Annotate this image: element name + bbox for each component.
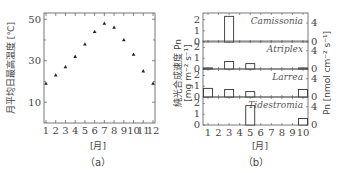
x-tick-label: 9: [289, 127, 295, 138]
y-right-tick-label: 4: [311, 101, 317, 112]
bar: [299, 89, 308, 97]
x-tick-label: 7: [268, 127, 274, 138]
y-right-tick-label: 4: [311, 17, 317, 28]
bar: [246, 64, 255, 69]
panel-b-ylabel-right: Pn [nmol cm⁻² s⁻¹]: [322, 31, 332, 115]
x-tick-label: 4: [72, 125, 78, 136]
data-point: [141, 69, 145, 72]
x-tick-label: 5: [82, 125, 88, 136]
bar: [225, 61, 234, 69]
y-tick-label: 2: [194, 69, 200, 80]
bar: [204, 88, 213, 97]
x-tick-label: 8: [279, 127, 285, 138]
y-tick-label: 0: [194, 119, 200, 130]
data-point: [103, 21, 107, 24]
panel-a-scatter: 103050123456789101112: [28, 13, 159, 136]
y-right-tick-label: 0: [311, 119, 317, 130]
x-tick-label: 3: [226, 127, 232, 138]
bar: [225, 16, 234, 42]
data-point: [151, 82, 155, 85]
panel-a-caption: （a）: [85, 157, 111, 168]
y-tick-label: 10: [28, 97, 41, 108]
panel-b-ylabel: 純光合成速度 Pn: [172, 39, 183, 107]
x-tick-label: 6: [91, 125, 97, 136]
x-tick-label: 9: [121, 125, 127, 136]
data-point: [83, 42, 87, 45]
y-right-tick-label: 4: [311, 73, 317, 84]
panel-b-xlabel: [月]: [252, 141, 268, 151]
data-point: [112, 26, 116, 29]
panel-b-bars: 01204Camissonia01204Atriplex01204Larrea0…: [194, 13, 318, 138]
bar: [299, 119, 308, 125]
x-tick-label: 2: [215, 127, 221, 138]
y-right-tick-label: 4: [311, 45, 317, 56]
x-tick-label: 8: [111, 125, 117, 136]
x-tick-label: 7: [101, 125, 107, 136]
y-tick-label: 30: [28, 55, 41, 66]
y-tick-label: 50: [28, 14, 41, 25]
panel-a-frame: [44, 13, 155, 123]
data-point: [64, 65, 68, 68]
species-label: Camissonia: [251, 16, 303, 26]
figure: 103050123456789101112 01204Camissonia012…: [0, 0, 340, 173]
bar: [225, 89, 234, 97]
data-point: [73, 55, 77, 58]
x-tick-label: 2: [53, 125, 59, 136]
x-tick-label: 4: [236, 127, 242, 138]
data-point: [132, 53, 136, 56]
panel-b-caption: （b）: [243, 157, 269, 168]
species-label: Larrea: [271, 72, 303, 82]
species-label: Atriplex: [266, 44, 303, 54]
y-tick-label: 2: [194, 97, 200, 108]
y-tick-label: 1: [194, 108, 200, 119]
data-point: [54, 73, 58, 76]
x-tick-label: 10: [297, 127, 310, 138]
species-label: Tidestromia: [248, 100, 303, 110]
x-tick-label: 3: [62, 125, 68, 136]
data-point: [122, 38, 126, 41]
panel-b-ylabel-unit: [mg m⁻² s⁻¹]: [183, 44, 193, 101]
y-tick-label: 2: [194, 41, 200, 52]
x-tick-label: 12: [147, 125, 160, 136]
bar: [246, 92, 255, 97]
panel-a-xlabel: [月]: [90, 141, 106, 151]
x-tick-label: 1: [43, 125, 49, 136]
x-tick-label: 6: [258, 127, 264, 138]
data-point: [44, 82, 48, 85]
x-tick-label: 5: [247, 127, 253, 138]
y-tick-label: 1: [194, 80, 200, 91]
y-tick-label: 1: [194, 52, 200, 63]
panel-a-ylabel: 月平均日最高温度 [℃]: [5, 22, 16, 114]
x-tick-label: 1: [205, 127, 211, 138]
y-tick-label: 2: [194, 14, 200, 25]
data-point: [93, 30, 97, 33]
y-tick-label: 1: [194, 25, 200, 36]
